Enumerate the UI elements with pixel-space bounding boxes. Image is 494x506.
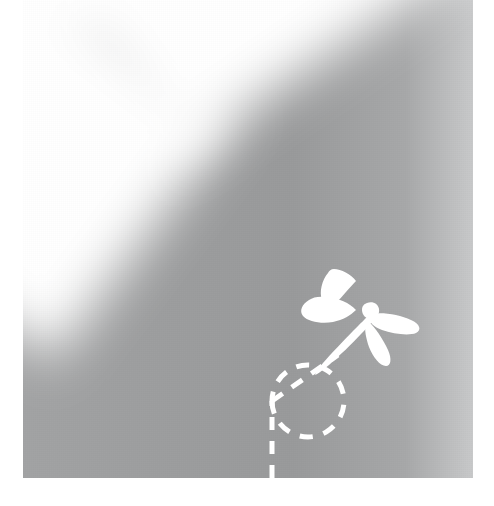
- dragonfly-figure: [301, 269, 419, 375]
- artwork-canvas: [0, 0, 494, 506]
- gradient-plate: [23, 0, 473, 478]
- flight-trail: [272, 355, 344, 478]
- trail-loop: [272, 365, 344, 437]
- figure-layer: [23, 0, 473, 478]
- dragonfly-wing-lower-left: [301, 297, 356, 323]
- dragonfly-abdomen: [315, 314, 375, 375]
